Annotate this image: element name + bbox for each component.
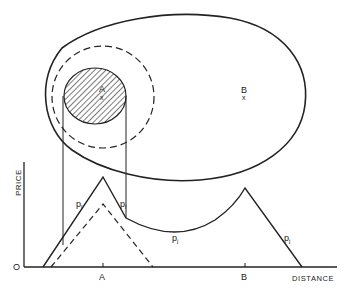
- hatched-region: [64, 68, 126, 124]
- label-pl-right: pl: [120, 199, 126, 210]
- x-tick-b-label: B: [241, 272, 247, 282]
- point-a-marker: x: [100, 94, 104, 101]
- origin-label: O: [13, 262, 20, 272]
- price-curve-solid: [43, 177, 302, 267]
- point-b-marker: x: [242, 94, 246, 101]
- price-curve-dashed: [51, 204, 153, 267]
- diagram-canvas: A x B x PRICE DISTANCE O A B pl pl pj pj: [0, 0, 351, 291]
- label-pl-left: pl: [76, 199, 82, 210]
- y-axis-label: PRICE: [14, 169, 23, 196]
- x-axis-label: DISTANCE: [292, 274, 334, 283]
- point-a-label: A: [99, 84, 105, 94]
- label-pj-mid: pj: [172, 233, 178, 244]
- x-tick-a-label: A: [99, 272, 105, 282]
- label-pj-right: pj: [284, 233, 290, 244]
